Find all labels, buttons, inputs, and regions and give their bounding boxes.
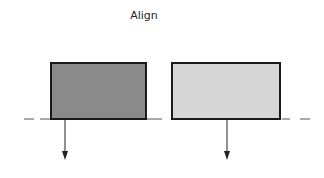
light-box	[172, 63, 280, 119]
dark-box	[51, 63, 146, 119]
align-diagram	[0, 0, 324, 178]
right-arrow	[224, 120, 230, 160]
left-arrow	[62, 120, 68, 160]
